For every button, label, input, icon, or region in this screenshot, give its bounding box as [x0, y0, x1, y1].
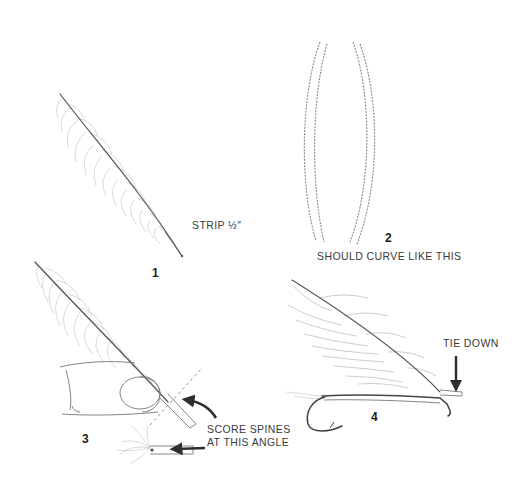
step4-feather-on-hook: [286, 280, 462, 431]
step3-number: 3: [82, 433, 89, 446]
step1-caption: STRIP ½″: [192, 219, 241, 231]
step3-hand-feather: [35, 262, 216, 428]
step1-number: 1: [152, 267, 159, 280]
step4-number: 4: [371, 411, 378, 424]
step4-caption: TIE DOWN: [443, 337, 499, 349]
step1-feather: [57, 94, 184, 257]
step3-result-feather: [116, 426, 205, 464]
step3-caption-line2: AT THIS ANGLE: [207, 436, 289, 448]
step2-caption: SHOULD CURVE LIKE THIS: [317, 250, 461, 262]
step2-number: 2: [385, 232, 392, 245]
step2-curved-spines: [304, 42, 374, 244]
step3-caption-line1: SCORE SPINES: [207, 423, 291, 435]
